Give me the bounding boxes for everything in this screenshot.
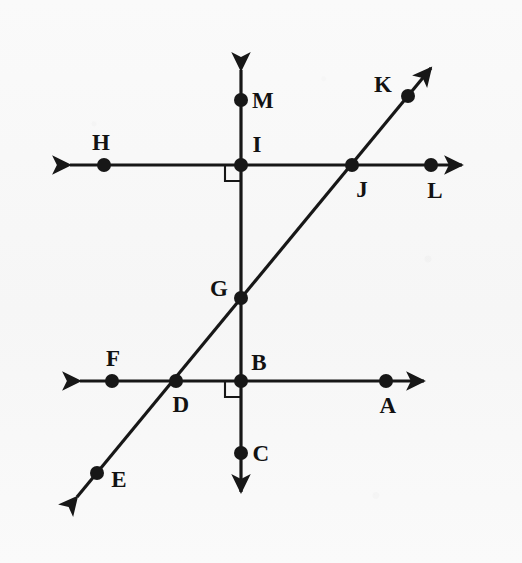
label-k: K (374, 73, 392, 96)
point-j (345, 158, 359, 172)
label-d: D (173, 393, 190, 416)
point-f (105, 374, 119, 388)
point-k (401, 89, 415, 103)
label-a: A (380, 394, 397, 417)
label-b: B (251, 351, 267, 374)
label-e: E (111, 468, 127, 491)
point-m (234, 93, 248, 107)
point-h (97, 158, 111, 172)
point-l (424, 158, 438, 172)
point-b (234, 374, 248, 388)
label-j: J (356, 178, 368, 201)
lines-group (70, 68, 462, 497)
point-a (379, 374, 393, 388)
points-group (90, 89, 438, 480)
point-g (234, 291, 248, 305)
point-i (234, 158, 248, 172)
label-g: G (210, 277, 228, 300)
point-d (169, 374, 183, 388)
label-i: I (252, 133, 261, 156)
point-e (90, 466, 104, 480)
label-f: F (106, 347, 120, 370)
label-c: C (253, 442, 270, 465)
label-m: M (252, 89, 274, 112)
label-h: H (92, 131, 110, 154)
label-l: L (427, 179, 443, 202)
geometry-figure: ABCDEFGHIJKLM (0, 0, 522, 563)
point-c (234, 446, 248, 460)
diagram-canvas (0, 0, 522, 563)
